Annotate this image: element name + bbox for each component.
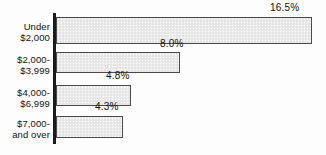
bar-segment bbox=[56, 17, 312, 44]
bar-segment bbox=[56, 116, 123, 138]
category-label: Under $2,000 bbox=[20, 22, 50, 43]
bar-value-label: 4.8% bbox=[106, 70, 130, 81]
category-label: $7,000- and over bbox=[12, 119, 50, 140]
category-label: $4,000- $6,999 bbox=[17, 88, 50, 109]
bar-value-label: 8.0% bbox=[160, 38, 184, 49]
category-label: $2,000- $3,999 bbox=[17, 55, 50, 76]
bar-chart: Under $2,000 16.5% $2,000- $3,999 8.0% $… bbox=[0, 0, 326, 155]
bar-segment bbox=[56, 85, 131, 106]
bar-value-label: 4.3% bbox=[95, 101, 119, 112]
bar-value-label: 16.5% bbox=[270, 2, 299, 13]
